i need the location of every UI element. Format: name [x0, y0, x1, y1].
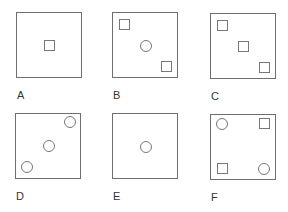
square-shape: [217, 163, 228, 174]
circle-shape: [258, 163, 270, 175]
circle-shape: [21, 161, 33, 173]
panel-c-label: C: [211, 90, 219, 102]
panel-e-label: E: [113, 190, 120, 202]
square-shape: [44, 40, 55, 51]
circle-shape: [43, 140, 55, 152]
square-shape: [259, 62, 270, 73]
panel-f: [210, 114, 276, 180]
panel-b-label: B: [113, 89, 120, 101]
panel-e: [112, 113, 178, 179]
panel-c: [210, 13, 276, 79]
panel-f-label: F: [211, 191, 218, 203]
circle-shape: [140, 40, 152, 52]
panel-a-label: A: [17, 89, 24, 101]
panel-b: [112, 12, 178, 78]
square-shape: [238, 41, 249, 52]
circle-shape: [140, 141, 152, 153]
panel-d: [15, 113, 81, 179]
square-shape: [119, 19, 130, 30]
circle-shape: [216, 118, 228, 130]
square-shape: [217, 20, 228, 31]
square-shape: [161, 61, 172, 72]
panel-d-label: D: [16, 190, 24, 202]
circle-shape: [64, 116, 76, 128]
panel-a: [16, 12, 82, 78]
square-shape: [259, 118, 270, 129]
